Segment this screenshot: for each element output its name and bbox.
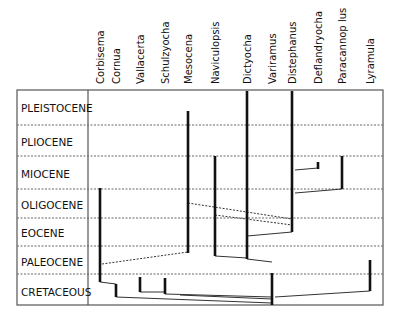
taxon-label: Mesocena bbox=[183, 34, 194, 84]
inferred-link-dashed bbox=[102, 252, 188, 264]
taxon-ranges bbox=[100, 91, 370, 305]
taxon-label: Vallacerta bbox=[135, 34, 146, 84]
epoch-label: PALEOCENE bbox=[21, 256, 83, 268]
taxon-label: Naviculopsis bbox=[210, 21, 221, 84]
ancestry-link bbox=[295, 189, 342, 193]
taxon-label: Paracannop lus bbox=[337, 8, 348, 84]
chart-frame bbox=[17, 90, 383, 305]
epoch-label: PLIOCENE bbox=[21, 136, 73, 148]
frame-border bbox=[17, 90, 383, 305]
epoch-label: EOCENE bbox=[21, 227, 64, 239]
taxon-label: Deflandryocha bbox=[313, 11, 324, 84]
ancestry-link bbox=[100, 282, 116, 284]
epoch-label: MIOCENE bbox=[21, 168, 70, 180]
taxon-label: Cornua bbox=[111, 48, 122, 84]
taxon-label: Schulzyocha bbox=[160, 21, 171, 84]
taxon-label: Dictyocha bbox=[242, 34, 253, 84]
taxon-labels: CorbisemaCornuaVallacertaSchulzyochaMeso… bbox=[95, 8, 376, 84]
taxon-label: Distephanus bbox=[287, 22, 298, 84]
epoch-label: PLEISTOCENE bbox=[21, 102, 93, 114]
taxon-label: Corbisema bbox=[95, 30, 106, 84]
epoch-label: CRETACEOUS bbox=[21, 286, 92, 298]
ancestry-link bbox=[295, 168, 318, 170]
taxon-label: Lyramula bbox=[365, 38, 376, 84]
inferred-link-dashed bbox=[188, 203, 292, 219]
epoch-label: OLIGOCENE bbox=[21, 199, 83, 211]
taxon-label: Variramus bbox=[267, 33, 278, 84]
stratigraphic-diagram: PLEISTOCENEPLIOCENEMIOCENEOLIGOCENEEOCEN… bbox=[0, 0, 398, 320]
epoch-labels: PLEISTOCENEPLIOCENEMIOCENEOLIGOCENEEOCEN… bbox=[21, 102, 93, 298]
ancestry-link bbox=[247, 232, 292, 236]
inferred-link-dashed bbox=[215, 215, 292, 225]
ancestry-link bbox=[247, 259, 272, 262]
ancestry-link bbox=[215, 256, 247, 258]
ancestry-link bbox=[275, 291, 370, 297]
